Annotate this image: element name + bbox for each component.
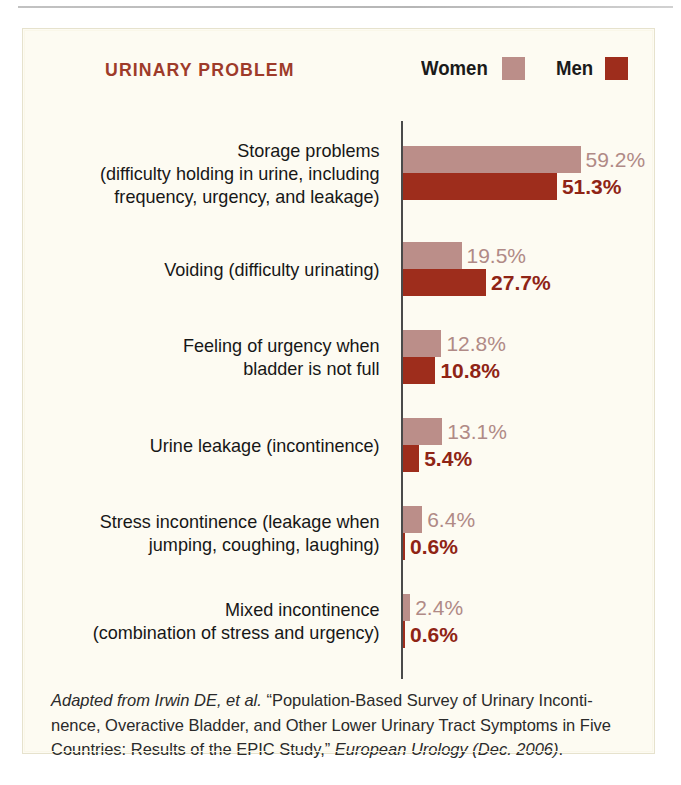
row-category-line: (combination of stress and urgency) bbox=[41, 621, 379, 644]
row-bars: 59.2%51.3% bbox=[391, 146, 654, 200]
bar-value-women: 6.4% bbox=[427, 508, 475, 532]
chart-row: Mixed incontinence(combination of stress… bbox=[23, 577, 654, 665]
row-category-line: Voiding (difficulty urinating) bbox=[41, 258, 379, 281]
row-bars: 2.4%0.6% bbox=[391, 594, 654, 648]
row-category-line: Storage problems bbox=[41, 139, 379, 162]
row-category-line: Feeling of urgency when bbox=[41, 334, 379, 357]
chart-row: Feeling of urgency whenbladder is not fu… bbox=[23, 313, 654, 401]
row-category-line: frequency, urgency, and leakage) bbox=[41, 185, 379, 208]
citation-tail: . bbox=[558, 740, 563, 759]
bar-men bbox=[403, 269, 486, 296]
scan-edge-line bbox=[18, 6, 673, 8]
bar-women bbox=[403, 242, 462, 269]
chart-rows: Storage problems(difficulty holding in u… bbox=[23, 121, 654, 665]
bar-women bbox=[403, 506, 422, 533]
chart-legend: Women Men bbox=[421, 57, 628, 80]
bar-value-women: 59.2% bbox=[586, 148, 646, 172]
bar-value-women: 12.8% bbox=[446, 332, 506, 356]
bar-women bbox=[403, 418, 442, 445]
row-category-line: (difficulty holding in urine, including bbox=[41, 162, 379, 185]
chart-row: Voiding (difficulty urinating)19.5%27.7% bbox=[23, 225, 654, 313]
chart-inner: URINARY PROBLEM Women Men Storage proble… bbox=[23, 29, 654, 753]
bar-line-men: 27.7% bbox=[403, 269, 654, 296]
row-category-label: Mixed incontinence(combination of stress… bbox=[41, 598, 391, 644]
row-category-line: jumping, coughing, laughing) bbox=[41, 533, 379, 556]
chart-row: Stress incontinence (leakage whenjumping… bbox=[23, 489, 654, 577]
row-category-line: Urine leakage (incontinence) bbox=[41, 434, 379, 457]
bar-men bbox=[403, 173, 557, 200]
bar-line-women: 19.5% bbox=[403, 242, 654, 269]
row-bars: 13.1%5.4% bbox=[391, 418, 654, 472]
chart-card: URINARY PROBLEM Women Men Storage proble… bbox=[22, 28, 655, 754]
bar-value-women: 2.4% bbox=[415, 596, 463, 620]
bar-line-men: 10.8% bbox=[403, 357, 654, 384]
row-category-label: Voiding (difficulty urinating) bbox=[41, 258, 391, 281]
bar-men bbox=[403, 357, 435, 384]
row-category-line: Mixed incontinence bbox=[41, 598, 379, 621]
row-category-label: Feeling of urgency whenbladder is not fu… bbox=[41, 334, 391, 380]
bar-line-men: 0.6% bbox=[403, 621, 654, 648]
bar-value-women: 13.1% bbox=[447, 420, 507, 444]
source-citation: Adapted from Irwin DE, et al. “Populatio… bbox=[51, 689, 613, 763]
bar-line-men: 5.4% bbox=[403, 445, 654, 472]
chart-row: Storage problems(difficulty holding in u… bbox=[23, 121, 654, 225]
bar-men bbox=[403, 533, 405, 560]
bar-value-men: 0.6% bbox=[410, 623, 458, 647]
bar-women bbox=[403, 594, 410, 621]
bar-women bbox=[403, 330, 441, 357]
bar-value-women: 19.5% bbox=[467, 244, 527, 268]
row-category-label: Storage problems(difficulty holding in u… bbox=[41, 139, 391, 208]
bar-line-women: 6.4% bbox=[403, 506, 654, 533]
row-category-label: Urine leakage (incontinence) bbox=[41, 434, 391, 457]
bar-line-men: 51.3% bbox=[403, 173, 654, 200]
bar-line-women: 13.1% bbox=[403, 418, 654, 445]
legend-label-women: Women bbox=[421, 57, 488, 80]
row-bars: 19.5%27.7% bbox=[391, 242, 654, 296]
bar-line-women: 12.8% bbox=[403, 330, 654, 357]
legend-label-men: Men bbox=[556, 57, 593, 80]
bar-line-men: 0.6% bbox=[403, 533, 654, 560]
bar-women bbox=[403, 146, 581, 173]
bar-line-women: 59.2% bbox=[403, 146, 654, 173]
citation-lead: Adapted from Irwin DE, et al. bbox=[51, 691, 262, 710]
page-title: URINARY PROBLEM bbox=[105, 59, 295, 81]
chart-plot-area: Storage problems(difficulty holding in u… bbox=[23, 121, 654, 665]
row-category-line: bladder is not full bbox=[41, 357, 379, 380]
bar-value-men: 5.4% bbox=[424, 447, 472, 471]
citation-journal: European Urology (Dec. 2006) bbox=[335, 740, 559, 759]
bar-line-women: 2.4% bbox=[403, 594, 654, 621]
row-category-label: Stress incontinence (leakage whenjumping… bbox=[41, 510, 391, 556]
row-bars: 12.8%10.8% bbox=[391, 330, 654, 384]
legend-swatch-men bbox=[605, 57, 628, 80]
bar-value-men: 0.6% bbox=[410, 535, 458, 559]
bar-men bbox=[403, 445, 419, 472]
bar-value-men: 51.3% bbox=[562, 175, 622, 199]
legend-swatch-women bbox=[502, 57, 525, 80]
chart-row: Urine leakage (incontinence)13.1%5.4% bbox=[23, 401, 654, 489]
bar-men bbox=[403, 621, 405, 648]
row-bars: 6.4%0.6% bbox=[391, 506, 654, 560]
bar-value-men: 10.8% bbox=[440, 359, 500, 383]
chart-header: URINARY PROBLEM Women Men bbox=[23, 57, 654, 87]
bar-value-men: 27.7% bbox=[491, 271, 551, 295]
row-category-line: Stress incontinence (leakage when bbox=[41, 510, 379, 533]
